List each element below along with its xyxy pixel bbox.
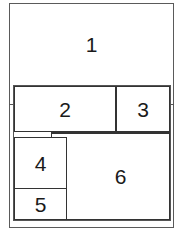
region-4-label: 4	[35, 153, 47, 174]
region-6: 6	[51, 132, 170, 220]
region-2: 2	[14, 86, 116, 132]
region-4: 4	[14, 137, 67, 189]
region-2-label: 2	[59, 99, 71, 120]
region-1: 1	[10, 4, 173, 85]
region-5: 5	[14, 188, 67, 220]
region-1-label: 1	[86, 33, 98, 57]
region-5-label: 5	[35, 194, 47, 215]
region-6-label: 6	[115, 166, 127, 187]
region-3: 3	[116, 86, 170, 132]
right-tick	[170, 104, 174, 105]
region-3-label: 3	[137, 99, 149, 120]
